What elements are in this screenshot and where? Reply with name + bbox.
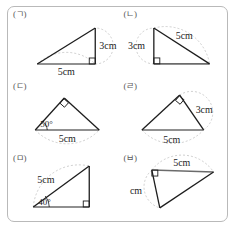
panel-b-diagram: 3cm 5cm xyxy=(118,6,229,78)
panel-d-base-label: 5cm xyxy=(163,134,180,145)
panel-a-diagram: 5cm 3cm xyxy=(7,6,118,78)
panel-a-vertical-label: 3cm xyxy=(99,40,116,51)
panel-f: (ㅂ) 5cm cm xyxy=(118,150,229,222)
triangle-worksheet-figure: (ㄱ) 5cm 3cm (ㄴ) 3cm xyxy=(0,0,235,229)
panel-f-top-label: 5cm xyxy=(173,157,190,168)
triangle-hypotenuse xyxy=(37,28,95,64)
panel-c-diagram: 50° 5cm xyxy=(7,78,118,150)
panel-e-angle-label: 40° xyxy=(38,197,51,207)
right-angle-mark xyxy=(89,58,95,64)
panel-b: (ㄴ) 3cm 5cm xyxy=(118,6,229,78)
right-angle-mark xyxy=(153,58,159,64)
panel-e-diagram: 5cm 40° xyxy=(7,150,118,222)
panel-c: (ㄷ) 50° 5cm xyxy=(7,78,118,150)
panel-b-hyp-label: 5cm xyxy=(175,30,192,41)
panel-d-diagram: 3cm 5cm xyxy=(118,78,229,150)
triangle-top-side xyxy=(151,170,213,172)
panel-c-angle-label: 50° xyxy=(40,119,53,129)
panel-e-hyp-label: 5cm xyxy=(37,174,54,185)
triangle-hypotenuse xyxy=(159,172,213,208)
panel-a: (ㄱ) 5cm 3cm xyxy=(7,6,118,78)
triangle-left-side xyxy=(141,95,179,130)
panel-f-diagram: 5cm cm xyxy=(118,150,229,222)
panel-f-vertical-label: cm xyxy=(129,185,141,196)
panel-c-base-label: 5cm xyxy=(59,133,76,144)
panel-d: (ㄹ) 3cm 5cm xyxy=(118,78,229,150)
panel-a-base-label: 5cm xyxy=(58,66,75,77)
panel-d-right-label: 3cm xyxy=(195,104,212,115)
triangle-right-side xyxy=(64,98,99,130)
panel-e: (ㅁ) 5cm 40° xyxy=(7,150,118,222)
panel-b-vertical-label: 3cm xyxy=(127,40,144,51)
right-angle-mark xyxy=(83,201,89,207)
panel-grid: (ㄱ) 5cm 3cm (ㄴ) 3cm xyxy=(7,6,228,222)
